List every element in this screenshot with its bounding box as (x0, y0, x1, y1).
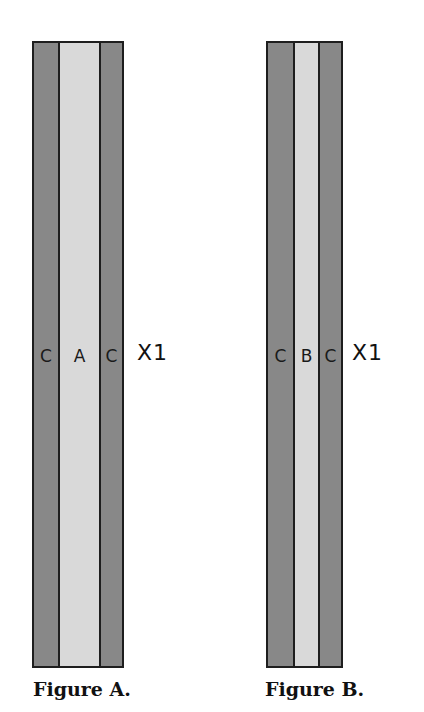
figure-b-multiplier: X1 (352, 340, 383, 365)
figure-b-caption: Figure B. (265, 678, 364, 700)
strip-b: B (293, 43, 318, 666)
strip-label: C (268, 346, 293, 366)
figure-a-multiplier: X1 (137, 340, 168, 365)
strip-label: C (320, 346, 341, 366)
strip-label: C (34, 346, 58, 366)
strip-c-right: C (318, 43, 341, 666)
strip-c-left: C (34, 43, 58, 666)
strip-c-left: C (268, 43, 293, 666)
strip-c-right: C (99, 43, 122, 666)
strip-label: A (60, 346, 99, 366)
strip-label: B (295, 346, 318, 366)
figure-b-strip-set: C B C (266, 41, 343, 668)
strip-a: A (58, 43, 99, 666)
figure-a-caption: Figure A. (33, 678, 131, 700)
figure-a-strip-set: C A C (32, 41, 124, 668)
strip-label: C (101, 346, 122, 366)
